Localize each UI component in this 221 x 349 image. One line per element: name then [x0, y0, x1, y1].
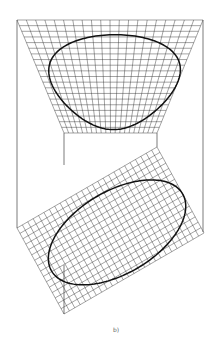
- figure-caption: b): [113, 326, 119, 333]
- saddle-mesh: [17, 20, 203, 133]
- plane-mesh: [17, 147, 204, 314]
- diagram-figure: [0, 0, 221, 349]
